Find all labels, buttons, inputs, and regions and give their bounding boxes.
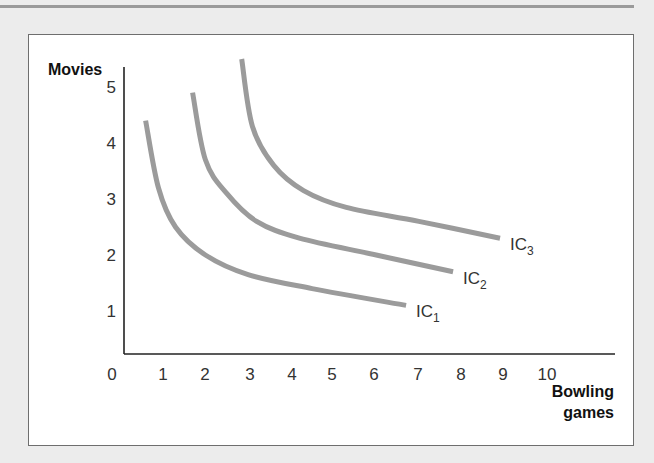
- x-tick-label: 6: [369, 365, 378, 384]
- x-axis-title-line1: Bowling: [552, 383, 614, 400]
- y-tick-label: 4: [107, 134, 116, 153]
- x-tick-labels: 012345678910: [107, 365, 556, 384]
- x-axis-title-line2: games: [563, 404, 614, 421]
- curve-label-ic1: IC1: [416, 302, 440, 325]
- y-tick-label: 3: [107, 190, 116, 209]
- x-tick-label: 2: [200, 365, 209, 384]
- y-tick-label: 1: [107, 302, 116, 321]
- x-tick-label: 3: [245, 365, 254, 384]
- curve-label-ic3: IC3: [510, 235, 534, 258]
- curve-label-ic2: IC2: [463, 269, 487, 292]
- x-tick-label: 5: [327, 365, 336, 384]
- x-tick-label: 0: [107, 365, 116, 384]
- x-tick-label: 4: [287, 365, 296, 384]
- x-tick-label: 9: [498, 365, 507, 384]
- indifference-curve-chart: Movies Bowling games 012345678910 12345 …: [0, 0, 654, 463]
- y-tick-labels: 12345: [107, 78, 116, 321]
- curve-ic2: [193, 93, 453, 272]
- curve-ic3: [242, 59, 500, 238]
- x-tick-label: 8: [456, 365, 465, 384]
- x-tick-label: 1: [158, 365, 167, 384]
- y-tick-label: 2: [107, 246, 116, 265]
- y-tick-label: 5: [107, 78, 116, 97]
- x-tick-label: 7: [413, 365, 422, 384]
- indifference-curves: IC1IC2IC3: [146, 59, 534, 325]
- x-tick-label: 10: [538, 365, 557, 384]
- y-axis-title: Movies: [48, 61, 102, 78]
